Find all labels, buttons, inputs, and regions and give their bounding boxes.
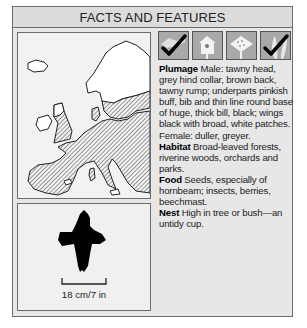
- nest-fact: Nest High in tree or bush—an untidy cup.: [159, 207, 293, 229]
- habitat-label: Habitat: [159, 141, 190, 152]
- distribution-map: [17, 32, 151, 199]
- plumage-label: Plumage: [159, 63, 198, 74]
- nest-label: Nest: [159, 207, 179, 218]
- open-country-icon: [158, 31, 189, 60]
- food-label: Food: [159, 174, 182, 185]
- bird-table-icon: [226, 31, 257, 60]
- plumage-text: Male: tawny head, grey hind collar, brow…: [159, 63, 293, 141]
- silhouette-panel: 18 cm/7 in: [17, 203, 151, 311]
- habitat-fact: Habitat Broad-leaved forests, riverine w…: [159, 141, 293, 174]
- nestbox-icon: [192, 31, 223, 60]
- plumage-fact: Plumage Male: tawny head, grey hind coll…: [159, 63, 293, 141]
- garden-icon: [260, 31, 291, 60]
- scale-label: 18 cm/7 in: [18, 289, 150, 300]
- habitat-icons-row: [158, 31, 291, 60]
- facts-text: Plumage Male: tawny head, grey hind coll…: [159, 63, 293, 229]
- bird-silhouette-icon: [18, 204, 150, 289]
- panel-title: FACTS AND FEATURES: [13, 7, 292, 28]
- europe-map-icon: [18, 33, 150, 198]
- facts-features-panel: FACTS AND FEATURES: [12, 6, 293, 317]
- food-fact: Food Seeds, especially of hornbeam; inse…: [159, 174, 293, 207]
